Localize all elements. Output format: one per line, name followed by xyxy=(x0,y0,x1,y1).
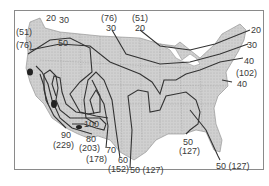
contour-label-nw-20: 20 xyxy=(46,14,56,23)
contour-label-sw-203: (203) xyxy=(79,144,100,153)
contour-label-ne-20: 20 xyxy=(251,26,261,35)
contour-label-n-51: (51) xyxy=(132,14,148,23)
contour-label-fl-50: 50 (127) xyxy=(216,162,250,171)
contour-label-s-178: (178) xyxy=(86,155,107,164)
contour-label-ne-40b: 40 xyxy=(237,80,247,89)
contour-label-nw-76: (76) xyxy=(16,41,32,50)
max-spot-az xyxy=(76,125,82,129)
contour-label-ne-102: (102) xyxy=(236,69,257,78)
contour-label-n-76: (76) xyxy=(101,14,117,23)
contour-label-n-20: 20 xyxy=(135,24,145,33)
max-spot-ca-sierra xyxy=(51,100,57,108)
contour-label-s-50: 50 (127) xyxy=(130,166,164,175)
contour-label-ne-30: 30 xyxy=(247,41,257,50)
contour-label-sw-100: 100 xyxy=(84,120,99,129)
contour-label-nw-30: 30 xyxy=(59,16,69,25)
contour-label-sw-229: (229) xyxy=(53,141,74,150)
contour-label-n-30: 30 xyxy=(106,24,116,33)
contour-label-ne-40: 40 xyxy=(244,57,254,66)
contour-label-sw-90: 90 xyxy=(61,131,71,140)
contour-label-nw-50: 50 xyxy=(58,39,68,48)
contour-label-s-152: (152) xyxy=(108,165,129,174)
contour-label-se-127: (127) xyxy=(179,147,200,156)
contour-label-nw-51: (51) xyxy=(16,28,32,37)
contour-label-s-70: 70 xyxy=(106,146,116,155)
max-spot-ca-north xyxy=(27,69,33,76)
